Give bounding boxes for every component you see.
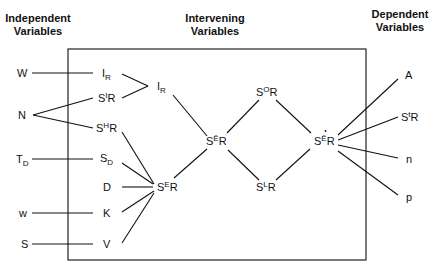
svg-text:V: V — [103, 238, 111, 250]
svg-text:IR: IR — [157, 80, 166, 95]
svg-text:SHR: SHR — [96, 121, 117, 134]
node-S: S — [21, 238, 28, 250]
svg-text:A: A — [405, 69, 413, 81]
svg-text:Intervening: Intervening — [185, 12, 244, 24]
edge-IR2-SEbarR — [173, 95, 207, 136]
svg-text:SĒR: SĒR — [314, 134, 335, 147]
node-StR: StR — [401, 110, 419, 123]
header-independent-variables: Independent Variables — [5, 12, 71, 37]
dot-accent-icon — [325, 130, 327, 132]
edge-N-SHR — [33, 115, 93, 128]
svg-text:n: n — [406, 153, 412, 165]
edge-SEdotR-StR — [338, 117, 398, 140]
node-SOR: SOR — [256, 85, 278, 98]
node-A: A — [405, 69, 413, 81]
node-K: K — [103, 207, 111, 219]
edges — [32, 73, 398, 244]
svg-text:S: S — [21, 238, 28, 250]
edge-SER-SEbarR — [174, 149, 207, 178]
node-SER: SER — [157, 180, 178, 193]
node-N: N — [18, 109, 26, 121]
svg-text:Independent: Independent — [5, 12, 71, 24]
edge-SEdotR-p — [338, 151, 398, 195]
svg-text:Variables: Variables — [14, 25, 62, 37]
node-V: V — [103, 238, 111, 250]
svg-text:SOR: SOR — [256, 85, 278, 98]
edge-SEdotR-n — [338, 145, 398, 158]
svg-text:SLR: SLR — [256, 180, 276, 193]
intervening-variables-box — [68, 49, 366, 260]
svg-text:TD: TD — [16, 153, 29, 168]
svg-text:Dependent: Dependent — [372, 8, 429, 20]
edge-V-SER — [122, 193, 154, 243]
svg-text:D: D — [103, 181, 111, 193]
node-IR-2: IR — [157, 80, 166, 95]
node-TD: TD — [16, 153, 29, 168]
svg-text:p: p — [406, 191, 412, 203]
node-W: W — [17, 67, 28, 79]
edge-IR-IR2 — [122, 74, 148, 86]
svg-text:SĒR: SĒR — [206, 134, 227, 147]
node-SEdotR: SĒR — [314, 130, 335, 147]
header-intervening-variables: Intervening Variables — [185, 12, 244, 37]
edge-SHR-SER — [122, 132, 154, 184]
node-D: D — [103, 181, 111, 193]
node-SEbarR: SĒR — [206, 134, 227, 147]
svg-text:K: K — [103, 207, 111, 219]
edge-SEbarR-SOR — [227, 100, 259, 133]
edge-SEdotR-A — [338, 79, 398, 135]
svg-text:IR: IR — [102, 67, 111, 82]
svg-text:w: w — [18, 207, 27, 219]
node-SIR: SIR — [98, 91, 116, 104]
edge-SD-SER — [122, 163, 153, 184]
svg-text:Variables: Variables — [376, 21, 424, 33]
svg-text:Variables: Variables — [191, 25, 239, 37]
node-IR-1: IR — [102, 67, 111, 82]
svg-text:SD: SD — [100, 152, 113, 167]
edge-SOR-SEdotR — [276, 100, 311, 133]
svg-text:SIR: SIR — [98, 91, 116, 104]
svg-text:W: W — [17, 67, 28, 79]
node-n: n — [406, 153, 412, 165]
edge-N-SIR — [33, 98, 93, 115]
svg-text:StR: StR — [401, 110, 419, 123]
node-p: p — [406, 191, 412, 203]
edge-SIR-IR2 — [122, 86, 148, 98]
node-SHR: SHR — [96, 121, 117, 134]
header-dependent-variables: Dependent Variables — [372, 8, 429, 33]
hull-behavior-system-diagram: Independent Variables Intervening Variab… — [0, 0, 436, 274]
edge-SLR-SEdotR — [276, 149, 310, 180]
node-SD: SD — [100, 152, 113, 167]
svg-text:SER: SER — [157, 180, 178, 193]
node-w: w — [18, 207, 27, 219]
edge-SEbarR-SLR — [228, 150, 259, 180]
node-SLR: SLR — [256, 180, 276, 193]
svg-text:N: N — [18, 109, 26, 121]
